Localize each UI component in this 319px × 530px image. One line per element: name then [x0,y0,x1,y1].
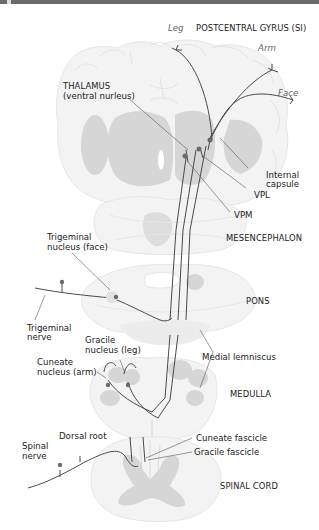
label-gracile-fascicle: Gracile fascicle [194,447,259,457]
label-cuneate-fascicle: Cuneate fascicle [196,433,267,443]
label-mesencephalon: MESENCEPHALON [226,233,302,243]
mesencephalon-section [94,197,246,255]
label-internal-capsule-2: capsule [266,179,299,189]
label-pons: PONS [246,296,270,306]
label-medulla: MEDULLA [230,389,271,399]
label-dorsal-root: Dorsal root [59,431,107,441]
label-gracile-nucleus-1: Gracile [85,335,115,345]
pathway-diagram: Leg POSTCENTRAL GYRUS (SI) Arm Face THAL… [0,0,319,530]
soma-thalamus-1 [208,138,213,143]
soma-dorsal-root-ganglion [58,463,62,467]
label-vpl: VPL [254,190,270,200]
label-trigeminal-nucleus-1: Trigeminal [46,232,92,242]
label-spinal-nerve-1: Spinal [22,441,48,451]
label-trigeminal-nerve-2: nerve [27,332,52,342]
medulla-section [90,357,217,440]
label-thalamus: THALAMUS [62,81,110,91]
label-thalamus-sub: (ventral nurleus) [63,91,135,101]
soma-trigeminal-ganglion [60,280,64,284]
label-medial-lemniscus: Medial lemniscus [202,352,276,362]
label-cuneate-nucleus-1: Cuneate [37,357,73,367]
label-spinal-nerve-2: nerve [22,451,47,461]
brain-section [57,40,288,208]
label-gracile-nucleus-2: nucleus (leg) [85,345,141,355]
label-postcentral-gyrus: POSTCENTRAL GYRUS (SI) [196,23,306,33]
soma-thalamus-2 [197,147,202,152]
soma-thalamus-3 [183,154,188,159]
label-leg: Leg [168,23,184,33]
label-spinal-cord: SPINAL CORD [220,481,278,491]
soma-gracile [126,383,130,387]
soma-cuneate [106,383,110,387]
label-face: Face [278,88,298,98]
label-cuneate-nucleus-2: nucleus (arm) [37,367,97,377]
label-trigeminal-nucleus-2: nucleus (face) [47,242,108,252]
soma-trigeminal-nucleus [114,295,118,299]
pons-section [82,264,256,345]
label-vpm: VPM [234,210,252,220]
label-arm: Arm [257,43,276,53]
